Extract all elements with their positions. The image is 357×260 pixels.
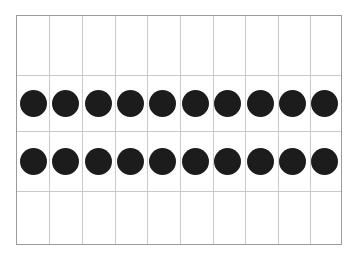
counter-dot[interactable] [20,90,47,117]
counter-dot[interactable] [149,90,176,117]
counter-cell [82,148,114,175]
counter-dot[interactable] [182,90,209,117]
counter-dot[interactable] [20,148,47,175]
counter-dot[interactable] [117,148,144,175]
counter-dot[interactable] [117,90,144,117]
counter-dot[interactable] [85,148,112,175]
grid-surface [17,16,341,244]
counter-cell [114,90,146,117]
counter-row-1 [17,75,341,131]
counter-row-2 [17,131,341,191]
counter-dot[interactable] [247,148,274,175]
counter-cell [179,90,211,117]
counter-dot[interactable] [214,148,241,175]
counter-cell [276,90,308,117]
counter-dot[interactable] [311,90,338,117]
counter-dot[interactable] [279,148,306,175]
horizontal-gridline-3 [17,191,341,192]
counter-dot[interactable] [52,148,79,175]
counter-dot[interactable] [182,148,209,175]
counter-cell [17,90,49,117]
counter-cell [17,148,49,175]
counter-cell [114,148,146,175]
counter-dot[interactable] [214,90,241,117]
counter-cell [309,148,341,175]
counter-cell [147,90,179,117]
counter-dot[interactable] [279,90,306,117]
counter-cell [211,90,243,117]
counter-dot[interactable] [52,90,79,117]
counter-dot[interactable] [311,148,338,175]
counter-cell [49,148,81,175]
counter-cell [244,90,276,117]
counter-cell [244,148,276,175]
counter-dot[interactable] [85,90,112,117]
counter-cell [179,148,211,175]
counter-cell [309,90,341,117]
counter-cell [49,90,81,117]
counting-worksheet [0,0,357,260]
counter-dot[interactable] [247,90,274,117]
counter-cell [276,148,308,175]
counter-cell [211,148,243,175]
grid-frame [16,15,342,245]
counter-dot[interactable] [149,148,176,175]
counter-cell [147,148,179,175]
counter-cell [82,90,114,117]
